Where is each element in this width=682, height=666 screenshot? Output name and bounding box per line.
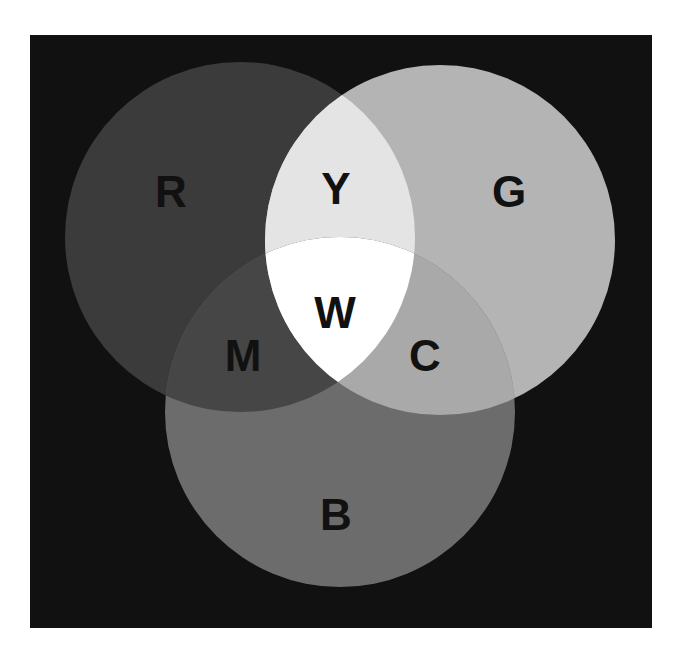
label-g: G xyxy=(492,167,526,216)
label-m: M xyxy=(225,331,262,380)
label-w: W xyxy=(314,288,356,337)
label-b: B xyxy=(320,490,352,539)
venn-diagram: R Y G W M C B xyxy=(0,0,682,666)
venn-diagram-stage: R Y G W M C B xyxy=(0,0,682,666)
label-y: Y xyxy=(321,164,350,213)
label-c: C xyxy=(409,331,441,380)
label-r: R xyxy=(155,167,187,216)
